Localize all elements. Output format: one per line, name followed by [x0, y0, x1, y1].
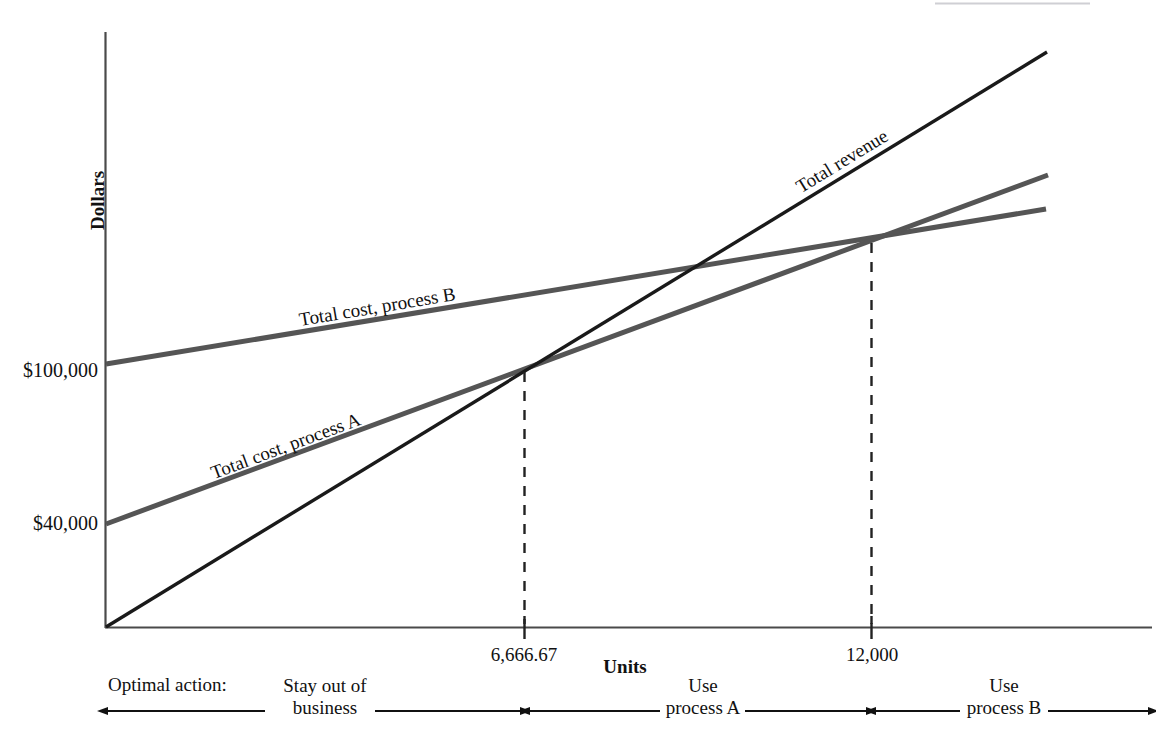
y-axis-title: Dollars — [88, 171, 108, 230]
y-tick-label-100000: $100,000 — [0, 360, 98, 381]
y-tick-label-40000: $40,000 — [0, 513, 98, 534]
breakeven-chart-figure: Dollars $100,000 $40,000 6,666.67 12,000… — [0, 0, 1156, 745]
optimal-action-segment-stay-out-line2: business — [250, 697, 400, 719]
series-line-total-cost-process-a — [106, 175, 1048, 524]
x-tick-label-12000: 12,000 — [807, 645, 937, 665]
optimal-action-segment-process-a-line1: Use — [628, 675, 778, 697]
optimal-action-segment-process-b: Use process B — [929, 675, 1079, 720]
optimal-action-caption: Optimal action: — [108, 675, 227, 695]
chart-canvas — [0, 0, 1156, 745]
optimal-action-segment-process-b-line1: Use — [929, 675, 1079, 697]
optimal-action-segment-process-a-line2: process A — [628, 697, 778, 719]
optimal-action-segment-process-a: Use process A — [628, 675, 778, 720]
x-axis-title: Units — [565, 657, 685, 677]
optimal-action-segment-stay-out: Stay out of business — [250, 675, 400, 720]
optimal-action-segment-stay-out-line1: Stay out of — [250, 675, 400, 697]
optimal-action-segment-process-b-line2: process B — [929, 697, 1079, 719]
